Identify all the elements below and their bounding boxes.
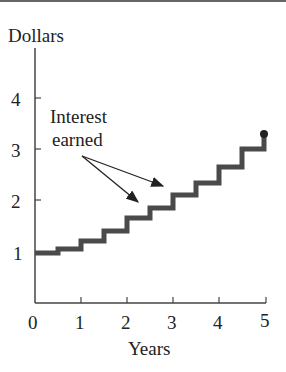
annotation-line2: earned [52,130,103,149]
x-tick-3: 3 [167,313,177,332]
end-marker [260,130,268,138]
x-tick-1: 1 [75,313,85,332]
arrow-2 [82,156,163,186]
x-tick-0: 0 [28,313,38,332]
y-axis-label: Dollars [8,26,64,45]
x-tick-4: 4 [213,313,223,332]
x-tick-2: 2 [121,313,131,332]
annotation-line1: Interest [50,107,107,126]
y-tick-2: 2 [11,192,21,211]
x-axis-label: Years [128,339,170,358]
x-tick-5: 5 [260,311,270,330]
step-series [35,134,264,253]
y-tick-1: 1 [13,244,23,263]
arrow-1 [82,156,138,202]
y-tick-4: 4 [11,90,21,109]
chart-plot [0,0,286,372]
y-ticks [35,98,41,252]
y-tick-3: 3 [11,141,21,160]
x-ticks [81,297,266,303]
